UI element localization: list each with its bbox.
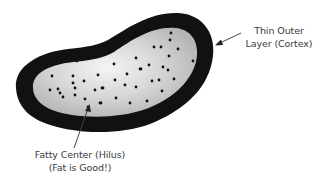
fat-dot bbox=[158, 79, 161, 82]
fat-dot bbox=[115, 97, 118, 100]
fat-dot bbox=[113, 63, 116, 66]
fat-dot bbox=[160, 46, 163, 49]
fat-dot bbox=[161, 90, 164, 93]
fat-dot bbox=[153, 46, 156, 49]
fat-dot bbox=[170, 32, 173, 35]
fat-dot bbox=[126, 73, 129, 76]
fat-dot bbox=[192, 60, 195, 63]
fat-dot bbox=[72, 82, 75, 85]
cortex-arrow bbox=[215, 33, 241, 46]
fat-dot bbox=[114, 79, 117, 82]
fat-dot bbox=[140, 68, 143, 71]
fat-dot bbox=[74, 94, 77, 97]
fat-dot bbox=[177, 48, 180, 51]
fat-dot bbox=[72, 75, 75, 78]
fat-dot bbox=[124, 84, 127, 87]
fat-dot bbox=[173, 78, 176, 81]
fat-dot bbox=[84, 98, 87, 101]
fat-dot bbox=[148, 64, 151, 67]
fat-dot bbox=[146, 100, 149, 103]
fat-dot bbox=[83, 80, 86, 83]
kidney-diagram: Thin Outer Layer (Cortex) Fatty Center (… bbox=[0, 0, 323, 183]
fat-dot bbox=[51, 75, 54, 78]
fat-dot bbox=[135, 57, 138, 60]
cortex-label-line1: Thin Outer bbox=[244, 25, 314, 38]
cortex-label-line2: Layer (Cortex) bbox=[244, 38, 314, 51]
fat-dot bbox=[167, 69, 170, 72]
cortex-label: Thin Outer Layer (Cortex) bbox=[244, 25, 314, 50]
fat-dot bbox=[57, 88, 60, 91]
hilus-label-line1: Fatty Center (Hilus) bbox=[30, 149, 130, 162]
fat-dot bbox=[49, 89, 52, 92]
fat-dot bbox=[169, 39, 172, 42]
fat-dot bbox=[62, 96, 65, 99]
fat-dot bbox=[168, 55, 171, 58]
fat-dot bbox=[94, 89, 97, 92]
fat-dot bbox=[129, 102, 132, 105]
fat-dot bbox=[76, 60, 79, 63]
hilus-label: Fatty Center (Hilus) (Fat is Good!) bbox=[30, 149, 130, 174]
fat-dot bbox=[151, 80, 154, 83]
fat-dot bbox=[59, 92, 62, 95]
hilus-label-line2: (Fat is Good!) bbox=[30, 162, 130, 175]
fat-dot bbox=[74, 87, 77, 90]
fat-dot bbox=[100, 102, 103, 105]
fat-dot bbox=[162, 66, 165, 69]
fat-dot bbox=[135, 86, 138, 89]
fat-dot bbox=[101, 87, 104, 90]
fat-dot bbox=[97, 74, 100, 77]
